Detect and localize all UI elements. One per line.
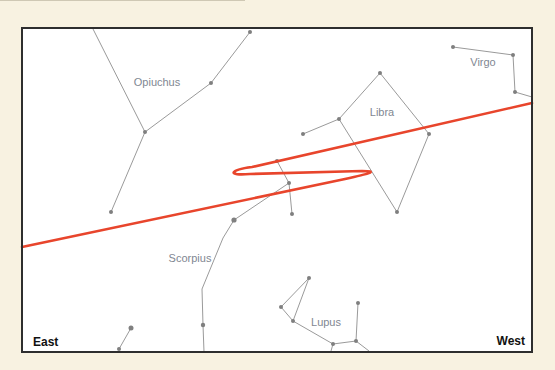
- label-virgo: Virgo: [470, 56, 495, 68]
- label-libra: Libra: [370, 106, 394, 118]
- label-opiuchus: Opiuchus: [134, 76, 180, 88]
- direction-east: East: [33, 335, 58, 349]
- label-lupus: Lupus: [311, 316, 341, 328]
- direction-west: West: [497, 334, 525, 348]
- label-scorpius: Scorpius: [169, 252, 212, 264]
- chart-frame: [22, 28, 532, 352]
